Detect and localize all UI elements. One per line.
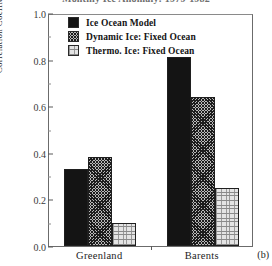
legend-label: Dynamic Ice: Fixed Ocean (86, 32, 196, 42)
bar (215, 188, 239, 246)
y-tick-label: 0.4 (0, 148, 46, 159)
y-tick-label: 0.6 (0, 102, 46, 113)
legend-item: Ice Ocean Model (68, 17, 196, 28)
y-tick-minor-mark (48, 130, 51, 131)
chart-figure: Monthly Ice Anomaly: 1979-1982 Correlati… (0, 0, 272, 266)
bar (191, 97, 215, 246)
y-tick-mark (48, 107, 53, 108)
y-tick-label: 0.0 (0, 242, 46, 253)
y-tick-mark (48, 60, 53, 61)
chart-legend: Ice Ocean ModelDynamic Ice: Fixed OceanT… (68, 17, 196, 56)
bar (64, 169, 88, 246)
y-tick-mark (48, 153, 53, 154)
bar (112, 223, 136, 246)
x-tick-label: Barents (185, 250, 219, 261)
y-tick-label: 0.2 (0, 195, 46, 206)
legend-label: Ice Ocean Model (86, 18, 156, 28)
panel-label: (b) (257, 249, 269, 260)
chart-title: Monthly Ice Anomaly: 1979-1982 (0, 0, 272, 4)
legend-item: Thermo. Ice: Fixed Ocean (68, 45, 196, 56)
y-tick-mark (48, 200, 53, 201)
y-tick-minor-mark (48, 37, 51, 38)
legend-swatch-icon (68, 45, 79, 56)
y-tick-minor-mark (48, 83, 51, 84)
bar (167, 57, 191, 246)
y-tick-label: 0.8 (0, 55, 46, 66)
legend-swatch-icon (68, 31, 79, 42)
y-tick-mark (48, 247, 53, 248)
legend-label: Thermo. Ice: Fixed Ocean (86, 46, 194, 56)
y-tick-label: 1.0 (0, 9, 46, 20)
legend-swatch-icon (68, 17, 79, 28)
y-tick-minor-mark (48, 177, 51, 178)
x-tick-mark (151, 246, 152, 250)
y-tick-mark (48, 14, 53, 15)
bar (88, 157, 112, 246)
y-tick-minor-mark (48, 223, 51, 224)
x-tick-label: Greenland (76, 250, 122, 261)
legend-item: Dynamic Ice: Fixed Ocean (68, 31, 196, 42)
